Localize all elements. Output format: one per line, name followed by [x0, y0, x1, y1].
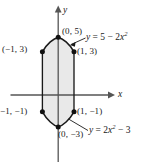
- parabola-region-figure: x y (0, 5) (−1, 3) (1, 3) −1, −1) (1, −1…: [0, 0, 160, 167]
- lower-eqn-operator: −: [118, 125, 123, 135]
- point-label-neg1-neg1: −1, −1): [0, 107, 27, 116]
- point-marker-0-5: [56, 35, 61, 40]
- lower-eqn-equals: =: [96, 125, 101, 135]
- point-label-0-neg3: (0, −3): [58, 130, 83, 139]
- point-marker-1-neg1: [72, 109, 77, 114]
- y-axis-label: y: [63, 6, 67, 16]
- upper-eqn-exponent: 2: [124, 30, 127, 37]
- x-axis-arrowhead: [108, 92, 115, 99]
- y-axis-arrowhead: [55, 6, 62, 13]
- lower-eqn-constant: 3: [126, 125, 131, 135]
- upper-eqn-equals: =: [93, 32, 98, 42]
- upper-curve-equation: y = 5 − 2x2: [86, 33, 127, 43]
- lower-curve-equation: y = 2x2 − 3: [89, 126, 130, 136]
- lower-eqn-lhs: y: [89, 125, 93, 135]
- x-axis-label: x: [118, 90, 122, 100]
- point-label-1-3: (1, 3): [77, 47, 97, 56]
- upper-eqn-operator: −: [107, 32, 112, 42]
- upper-eqn-lhs: y: [86, 32, 90, 42]
- point-label-neg1-3: (−1, 3): [2, 45, 27, 54]
- point-label-0-5: (0, 5): [62, 27, 82, 36]
- point-label-1-neg1: (1, −1): [77, 107, 102, 116]
- point-marker-neg1-neg1: [40, 109, 45, 114]
- point-marker-neg1-3: [40, 49, 45, 54]
- upper-eqn-constant: 5: [100, 32, 105, 42]
- lower-eqn-exponent: 2: [112, 123, 115, 130]
- point-marker-1-3: [72, 49, 77, 54]
